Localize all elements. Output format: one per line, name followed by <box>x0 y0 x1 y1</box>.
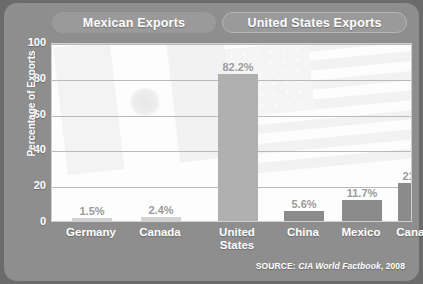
flag-star-icon <box>270 61 273 64</box>
x-label-line1: Canada <box>120 226 200 239</box>
bar-canada-5 <box>398 183 412 221</box>
x-label-line2: States <box>197 239 277 252</box>
gridline-100 <box>52 44 411 45</box>
bar-canada-1 <box>141 217 181 221</box>
x-label-1: Canada <box>120 226 200 239</box>
source-title: CIA World Factbook <box>298 261 381 271</box>
value-label-2: 82.2% <box>208 61 268 73</box>
flag-star-icon <box>300 100 303 103</box>
flag-star-icon <box>272 82 275 85</box>
flag-star-icon <box>261 104 264 107</box>
flag-star-icon <box>284 70 287 73</box>
x-label-5: Canada <box>377 226 423 239</box>
y-tick-20: 20 <box>12 179 46 191</box>
flag-star-icon <box>282 49 285 52</box>
value-label-3: 5.6% <box>274 198 334 210</box>
flag-star-icon <box>273 92 276 95</box>
flag-star-icon <box>271 71 274 74</box>
flag-star-icon <box>269 50 272 53</box>
flag-star-icon <box>260 93 263 96</box>
value-label-1: 2.4% <box>131 204 191 216</box>
flag-star-icon <box>259 83 262 86</box>
flag-star-icon <box>274 103 277 106</box>
value-label-5: 21.4% <box>388 170 412 182</box>
flag-star-icon <box>286 91 289 94</box>
y-tick-0: 0 <box>12 215 46 227</box>
source-suffix: , 2008 <box>381 261 405 271</box>
y-axis-title: Percentage of Exports <box>26 29 37 179</box>
value-label-4: 11.7% <box>332 187 392 199</box>
flag-star-icon <box>285 80 288 83</box>
flag-star-icon <box>287 101 290 104</box>
bar-mexico-4 <box>342 200 382 221</box>
source-note: SOURCE: CIA World Factbook, 2008 <box>256 261 405 271</box>
x-axis-labels: GermanyCanadaUnitedStatesChinaMexicoCana… <box>51 226 412 260</box>
value-label-0: 1.5% <box>62 205 122 217</box>
source-prefix: SOURCE: <box>256 261 296 271</box>
flag-star-icon <box>299 90 302 93</box>
flag-star-icon <box>295 48 298 51</box>
plot-area: 1.5%2.4%82.2%5.6%11.7%21.4% <box>51 43 412 222</box>
flag-star-icon <box>243 53 246 56</box>
bar-china-3 <box>284 211 324 221</box>
flag-star-icon <box>283 60 286 63</box>
x-label-line1: Germany <box>51 226 131 239</box>
flag-star-icon <box>258 72 261 75</box>
flag-star-icon <box>297 69 300 72</box>
panel-title-mexican-exports: Mexican Exports <box>52 12 216 33</box>
x-label-line1: Canada <box>377 226 423 239</box>
flag-star-icon <box>296 58 299 61</box>
flag-star-icon <box>256 52 259 55</box>
panel-title-united-states-exports: United States Exports <box>222 12 407 33</box>
flag-star-icon <box>230 54 233 57</box>
bar-germany-0 <box>72 218 112 221</box>
x-label-0: Germany <box>51 226 131 239</box>
chart-screen: Mexican Exports United States Exports 10… <box>0 0 423 284</box>
bar-united-2 <box>218 74 258 221</box>
chart-card: Mexican Exports United States Exports 10… <box>4 3 419 281</box>
